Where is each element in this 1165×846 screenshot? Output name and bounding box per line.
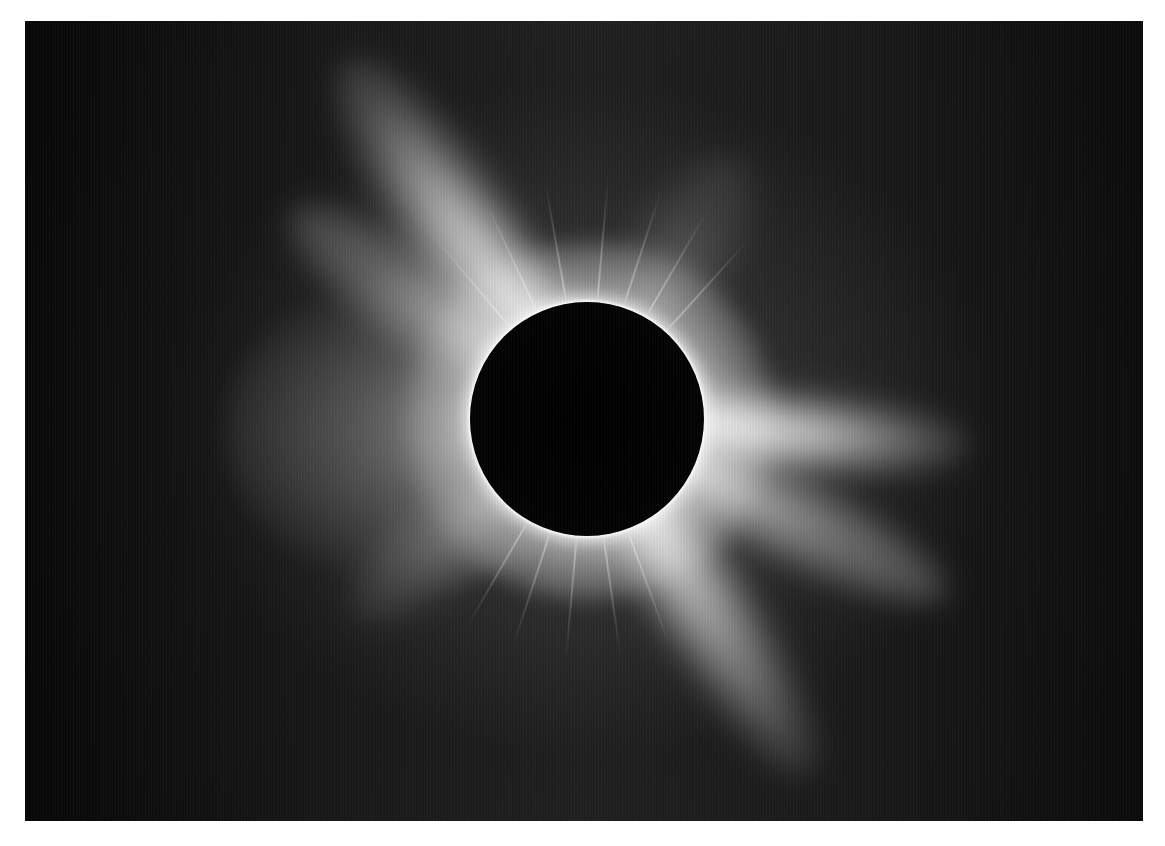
moon-disk xyxy=(470,302,704,536)
page xyxy=(0,0,1165,846)
eclipse-photo xyxy=(25,21,1143,821)
